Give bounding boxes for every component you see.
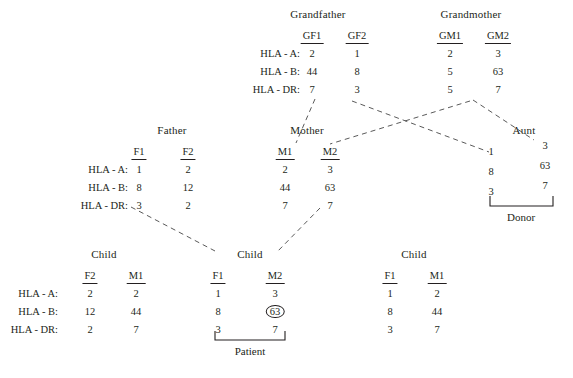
grandfather-col1-a: 2 (309, 48, 314, 59)
rowlabel-top-hla-a: HLA - A: (260, 48, 300, 59)
mismatch-highlight-circle: 63 (266, 305, 285, 318)
line-father-f1-to-child (131, 207, 215, 251)
child-center-title: Child (237, 248, 262, 260)
pedigree-diagram: Grandfather GF1 GF2 2 44 7 1 8 3 Grandmo… (0, 0, 573, 378)
child-right-f1-dr: 3 (387, 324, 392, 335)
aunt-c1-a: 1 (488, 146, 493, 157)
father-f2-a: 2 (185, 164, 190, 175)
mother-m1-dr: 7 (282, 200, 287, 211)
child-left-c1-a: 2 (87, 288, 92, 299)
child-right-f1-a: 1 (387, 288, 392, 299)
line-gf2-to-aunt-c1 (352, 101, 489, 152)
mother-m2-b: 63 (325, 182, 336, 193)
donor-bracket (490, 196, 553, 206)
child-right-m1-b: 44 (432, 306, 443, 317)
rowlabel-top-hla-dr: HLA - DR: (253, 84, 300, 95)
child-left-c2-a: 2 (133, 288, 138, 299)
grandmother-col2-dr: 7 (495, 84, 500, 95)
mother-col2-head: M2 (321, 146, 340, 160)
rowlabel-bot-hla-a: HLA - A: (18, 288, 58, 299)
child-right-f1-b: 8 (387, 306, 392, 317)
line-mother-m2-to-child (277, 208, 320, 252)
child-center-col2-head: M2 (266, 270, 285, 284)
mother-m2-a: 3 (327, 164, 332, 175)
donor-label: Donor (507, 211, 535, 223)
line-gm2-to-mother-m2 (330, 101, 470, 144)
mother-title: Mother (290, 124, 324, 136)
grandfather-col1-b: 44 (307, 66, 318, 77)
father-f1-a: 1 (136, 164, 141, 175)
father-title: Father (157, 124, 186, 136)
child-left-c2-dr: 7 (133, 324, 138, 335)
grandmother-col2-b: 63 (493, 66, 504, 77)
child-center-f1-b: 8 (215, 306, 220, 317)
aunt-title: Aunt (513, 124, 536, 136)
father-col1-head: F1 (131, 146, 146, 160)
grandfather-col2-a: 1 (354, 48, 359, 59)
child-right-title: Child (401, 248, 426, 260)
child-left-col1-head: F2 (82, 270, 97, 284)
child-center-col1-head: F1 (210, 270, 225, 284)
line-gf1-to-mother-m1 (296, 99, 315, 143)
child-right-col2-head: M1 (428, 270, 447, 284)
grandmother-col1-a: 2 (447, 48, 452, 59)
grandmother-col1-dr: 5 (447, 84, 452, 95)
child-center-f1-dr: 3 (215, 324, 220, 335)
father-col2-head: F2 (180, 146, 195, 160)
mother-m1-b: 44 (280, 182, 291, 193)
father-f2-b: 12 (183, 182, 194, 193)
patient-label: Patient (235, 345, 266, 357)
grandfather-col1-dr: 7 (309, 84, 314, 95)
father-f1-dr: 3 (136, 200, 141, 211)
aunt-c1-dr: 3 (488, 186, 493, 197)
mother-m1-a: 2 (282, 164, 287, 175)
child-center-m2-dr: 7 (272, 324, 277, 335)
aunt-c2-a: 3 (542, 140, 547, 151)
child-right-m1-dr: 7 (434, 324, 439, 335)
father-f1-b: 8 (136, 182, 141, 193)
child-right-col1-head: F1 (382, 270, 397, 284)
child-right-m1-a: 2 (434, 288, 439, 299)
rowlabel-bot-hla-dr: HLA - DR: (11, 324, 58, 335)
grandmother-col2-head: GM2 (485, 30, 511, 44)
aunt-c2-dr: 7 (542, 180, 547, 191)
child-left-title: Child (91, 248, 116, 260)
grandmother-col1-b: 5 (447, 66, 452, 77)
child-left-c2-b: 44 (131, 306, 142, 317)
child-left-c1-dr: 2 (87, 324, 92, 335)
aunt-c2-b: 63 (540, 160, 551, 171)
mother-col1-head: M1 (276, 146, 295, 160)
grandfather-col2-b: 8 (354, 66, 359, 77)
child-center-m2-a: 3 (272, 288, 277, 299)
grandmother-title: Grandmother (441, 8, 502, 20)
child-left-c1-b: 12 (85, 306, 96, 317)
child-center-m2-b-wrap: 63 (266, 305, 285, 318)
mother-m2-dr: 7 (327, 200, 332, 211)
rowlabel-mid-hla-a: HLA - A: (88, 164, 128, 175)
rowlabel-bot-hla-b: HLA - B: (18, 306, 58, 317)
aunt-c1-b: 8 (488, 166, 493, 177)
rowlabel-mid-hla-dr: HLA - DR: (81, 200, 128, 211)
grandfather-col1-head: GF1 (301, 30, 324, 44)
grandmother-col2-a: 3 (495, 48, 500, 59)
child-left-col2-head: M1 (127, 270, 146, 284)
grandfather-col2-dr: 3 (354, 84, 359, 95)
rowlabel-top-hla-b: HLA - B: (260, 66, 300, 77)
grandmother-col1-head: GM1 (437, 30, 463, 44)
grandfather-col2-head: GF2 (346, 30, 369, 44)
rowlabel-mid-hla-b: HLA - B: (88, 182, 128, 193)
father-f2-dr: 2 (185, 200, 190, 211)
grandfather-title: Grandfather (290, 8, 345, 20)
child-center-f1-a: 1 (215, 288, 220, 299)
